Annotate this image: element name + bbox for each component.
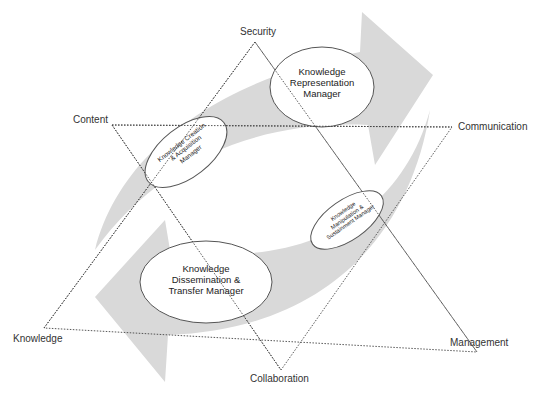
vertex-label-communication: Communication [458,121,527,132]
representation-manager-label: Knowledge Representation Manager [272,67,372,100]
dissemination-manager-label: Knowledge Dissemination & Transfer Manag… [150,264,262,297]
vertex-label-security: Security [240,26,276,37]
vertex-label-management: Management [450,337,508,348]
vertex-label-knowledge: Knowledge [13,333,62,344]
vertex-label-collaboration: Collaboration [250,373,309,384]
vertex-label-content: Content [73,114,108,125]
